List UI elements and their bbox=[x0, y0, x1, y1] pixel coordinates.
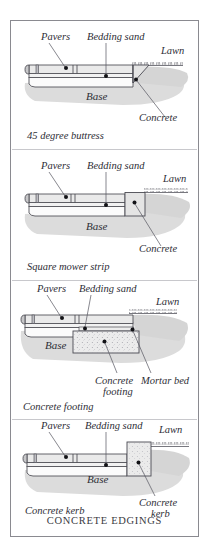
label-base: Base bbox=[86, 90, 108, 102]
diagram-caption: 45 degree buttress bbox=[27, 130, 104, 141]
label-base: Base bbox=[87, 473, 109, 485]
diagram-concrete-footing: Pavers Bedding sand Lawn Base Concrete f… bbox=[11, 281, 198, 419]
lawn-surface bbox=[129, 309, 177, 314]
paving-assembly bbox=[23, 442, 151, 476]
lawn-surface bbox=[144, 188, 188, 193]
label-mortar-bed: Mortar bed bbox=[140, 375, 190, 386]
plate-title: CONCRETE EDGINGS bbox=[11, 515, 198, 526]
screenshot-root: Pavers Bedding sand Lawn Base Concrete 4… bbox=[0, 0, 210, 557]
label-concrete: Concrete bbox=[139, 112, 177, 123]
diagram-square-mower-strip-figure: Pavers Bedding sand Lawn Base Concrete S… bbox=[11, 150, 198, 280]
paving-assembly bbox=[25, 193, 145, 217]
label-bedding-sand: Bedding sand bbox=[87, 31, 145, 42]
diagram-concrete-footing-figure: Pavers Bedding sand Lawn Base Concrete f… bbox=[11, 281, 198, 419]
label-base: Base bbox=[86, 220, 108, 232]
label-lawn: Lawn bbox=[155, 296, 179, 307]
label-base: Base bbox=[45, 339, 67, 351]
label-concrete: Concrete bbox=[139, 243, 177, 254]
label-lawn: Lawn bbox=[160, 45, 184, 56]
label-pavers: Pavers bbox=[40, 31, 70, 42]
label-concrete-footing-line1: Concrete bbox=[95, 375, 133, 386]
label-lawn: Lawn bbox=[158, 424, 182, 435]
lawn-surface bbox=[151, 442, 189, 447]
label-pavers: Pavers bbox=[36, 283, 66, 294]
diagram-square-mower-strip: Pavers Bedding sand Lawn Base Concrete S… bbox=[11, 150, 198, 280]
illustration-plate: Pavers Bedding sand Lawn Base Concrete 4… bbox=[10, 20, 199, 537]
diagram-45-degree-buttress: Pavers Bedding sand Lawn Base Concrete 4… bbox=[11, 21, 198, 149]
diagram-45-degree-buttress-figure: Pavers Bedding sand Lawn Base Concrete 4… bbox=[11, 21, 198, 149]
label-bedding-sand: Bedding sand bbox=[87, 160, 145, 171]
label-lawn: Lawn bbox=[162, 173, 186, 184]
label-pavers: Pavers bbox=[40, 160, 70, 171]
label-concrete-kerb-line1: Concrete bbox=[139, 497, 177, 508]
label-pavers: Pavers bbox=[40, 420, 70, 431]
paving-assembly bbox=[25, 65, 149, 87]
diagram-caption: Square mower strip bbox=[27, 261, 109, 272]
label-bedding-sand: Bedding sand bbox=[79, 283, 137, 294]
label-bedding-sand: Bedding sand bbox=[85, 420, 143, 431]
diagram-caption: Concrete footing bbox=[23, 401, 93, 412]
label-concrete-footing-line2: footing bbox=[103, 386, 133, 397]
